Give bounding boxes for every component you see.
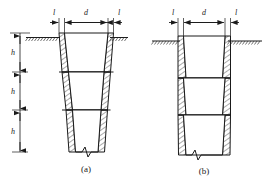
dim-label-a-l-left: l [53,8,56,17]
dim-label-h-3: h [11,127,15,136]
ground-line-a-left [26,38,61,42]
dim-label-b-l-right: l [235,8,238,17]
shaft-b-void-lift3 [184,115,226,155]
panel-a: l d l h h h ( [10,8,128,174]
figure-canvas: l d l h h h ( [0,0,270,181]
dimension-chain-a: l d l [50,8,122,33]
dim-label-a-l-right: l [118,8,121,17]
dim-label-b-d: d [202,8,207,17]
engineering-figure: l d l h h h ( [0,0,270,181]
dim-label-b-l-left: l [172,8,175,17]
dimension-chain-h: h h h [10,33,30,152]
dim-label-h-1: h [11,48,15,57]
dim-label-a-d: d [84,8,89,17]
shaft-a-void-lift1 [65,33,109,72]
shaft-b-void-lift2 [184,78,226,115]
dim-label-h-2: h [11,87,15,96]
ground-line-b-left [152,41,181,45]
dimension-chain-b: l d l [169,8,239,36]
shaft-a-void-lift3 [73,110,102,152]
caption-a: (a) [81,164,91,174]
panel-b: l d l (b) [152,8,263,176]
shaft-a-void-lift2 [69,72,105,110]
shaft-b-void-lift1 [184,36,226,78]
ground-line-b-right [228,41,263,45]
caption-b: (b) [199,166,210,176]
